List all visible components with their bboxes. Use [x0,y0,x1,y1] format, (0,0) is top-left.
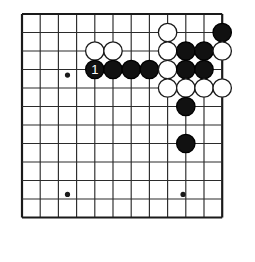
black-stone-disc [213,23,231,41]
star-point-bottom-left-icon [65,192,70,197]
white-stone-disc [86,42,104,60]
black-stone-disc [122,60,140,78]
black-stone-c11r1[interactable] [213,23,231,41]
white-stone-c8r1[interactable] [158,23,176,41]
white-stone-c11r2[interactable] [213,42,231,60]
black-stone-c9r2[interactable] [177,42,195,60]
white-stone-disc [177,79,195,97]
black-stone-disc [195,60,213,78]
black-stone-c5r3[interactable] [104,60,122,78]
white-stone-c8r2[interactable] [158,42,176,60]
go-board-diagram: 1 [0,0,255,262]
black-stone-disc [86,60,104,78]
black-stone-disc [140,60,158,78]
star-point-left-icon [65,72,70,77]
black-stone-disc [177,42,195,60]
black-stone-c9r5[interactable] [177,97,195,115]
white-stone-c5r2[interactable] [104,42,122,60]
black-stone-disc [104,60,122,78]
white-stone-disc [213,42,231,60]
black-stone-c10r2[interactable] [195,42,213,60]
black-stone-c6r3[interactable] [122,60,140,78]
black-stone-c10r3[interactable] [195,60,213,78]
black-stone-move-1[interactable]: 1 [86,60,104,78]
black-stone-disc [177,134,195,152]
star-point-bottom-right-icon [180,192,185,197]
go-board-svg[interactable]: 1 [0,0,255,262]
white-stone-disc [158,60,176,78]
white-stone-disc [195,79,213,97]
white-stone-c8r4[interactable] [158,79,176,97]
white-stone-disc [158,79,176,97]
black-stone-c9r3[interactable] [177,60,195,78]
white-stone-disc [158,42,176,60]
white-stone-c10r4[interactable] [195,79,213,97]
black-stone-disc [177,97,195,115]
black-stone-disc [195,42,213,60]
white-stone-disc [158,23,176,41]
black-stone-c7r3[interactable] [140,60,158,78]
white-stone-disc [213,79,231,97]
white-stone-c11r4[interactable] [213,79,231,97]
white-stone-c8r3[interactable] [158,60,176,78]
white-stone-disc [104,42,122,60]
black-stone-disc [177,60,195,78]
black-stone-c9r7[interactable] [177,134,195,152]
white-stone-c9r4[interactable] [177,79,195,97]
white-stone-c4r2[interactable] [86,42,104,60]
